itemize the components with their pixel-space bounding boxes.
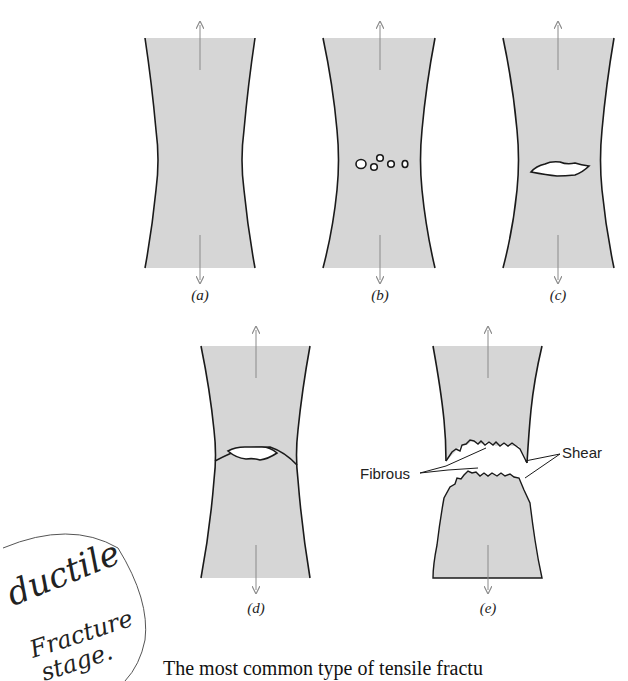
caption-b: (b) xyxy=(371,287,389,304)
ductile-fracture-figure: (a) (b) (c) (d) (e) Fibrous Shear ductil… xyxy=(0,0,628,681)
specimen-e xyxy=(420,330,560,590)
fibrous-label: Fibrous xyxy=(360,465,410,482)
shear-label: Shear xyxy=(562,444,602,461)
body-text: The most common type of tensile fractu xyxy=(163,657,483,680)
caption-d: (d) xyxy=(247,600,265,617)
caption-e: (e) xyxy=(480,600,497,617)
specimen-b xyxy=(323,25,435,280)
caption-c: (c) xyxy=(550,287,567,304)
specimen-a xyxy=(145,25,255,280)
caption-a: (a) xyxy=(191,287,209,304)
specimen-c xyxy=(503,25,614,280)
specimen-d xyxy=(201,330,310,590)
